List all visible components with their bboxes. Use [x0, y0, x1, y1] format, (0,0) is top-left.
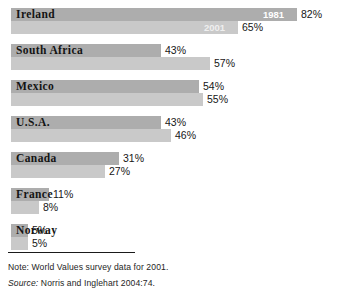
bar-row: 43%57%South Africa [0, 44, 339, 71]
bar-value-label: 57% [214, 57, 235, 70]
bar-row: 31%27%Canada [0, 152, 339, 179]
bar-value-label: 43% [165, 116, 186, 129]
bar-2001 [11, 57, 210, 70]
note-prefix: Note: [8, 262, 29, 272]
country-label: Mexico [16, 80, 54, 93]
country-label: France [16, 188, 53, 201]
figure-title-cropped [11, 0, 331, 1]
footer-divider [8, 252, 135, 253]
bar-value-label: 27% [109, 165, 130, 178]
country-label: South Africa [16, 44, 83, 57]
bar-2001 [11, 165, 105, 178]
source-line: Source: Norris and Inglehart 2004:74. [8, 278, 155, 288]
bar-row: 54%55%Mexico [0, 80, 339, 107]
country-label: Ireland [16, 8, 55, 21]
bar-value-label: 5% [32, 237, 47, 250]
source-text: Norris and Inglehart 2004:74. [41, 278, 155, 288]
source-prefix: Source: [8, 278, 38, 288]
bar-row: 11%8%France [0, 188, 339, 215]
bar-2001 [11, 129, 171, 142]
bar-value-label: 46% [175, 129, 196, 142]
bar-2001 [11, 93, 203, 106]
bar-row: 43%46%U.S.A. [0, 116, 339, 143]
bar-value-label: 43% [165, 44, 186, 57]
note-text: World Values survey data for 2001. [32, 262, 169, 272]
bar-value-label: 31% [123, 152, 144, 165]
bar-row: 5%5%Norway [0, 224, 339, 251]
country-label: U.S.A. [16, 116, 50, 129]
bar-value-label: 55% [207, 93, 228, 106]
country-label: Norway [16, 224, 57, 237]
bar-value-label: 8% [43, 201, 58, 214]
bar-2001 [11, 237, 28, 250]
series-year-label: 2001 [204, 21, 225, 34]
bar-value-label: 65% [242, 21, 263, 34]
bar-value-label: 54% [203, 80, 224, 93]
bar-2001 [11, 201, 39, 214]
series-year-label: 1981 [263, 8, 284, 21]
note-line: Note: World Values survey data for 2001. [8, 262, 168, 272]
bar-value-label: 11% [53, 188, 73, 201]
country-label: Canada [16, 152, 57, 165]
bar-chart: 198182%200165%Ireland43%57%South Africa5… [0, 0, 339, 248]
bar-row: 198182%200165%Ireland [0, 8, 339, 35]
bar-value-label: 82% [301, 8, 322, 21]
